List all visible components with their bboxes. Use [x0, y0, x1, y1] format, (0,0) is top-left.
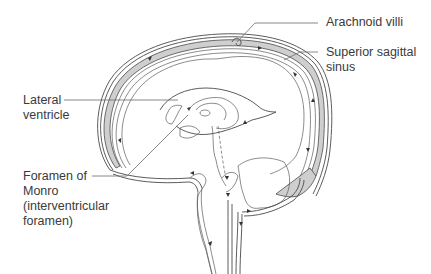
- brain-surface: [110, 57, 304, 274]
- label-line: Monro: [23, 184, 109, 199]
- csf-flow-arrows: [118, 46, 315, 246]
- label-lateral-ventricle: Lateral ventricle: [23, 93, 70, 123]
- label-foramen-of-monro: Foramen of Monro (interventricular foram…: [23, 169, 109, 229]
- label-line: foramen): [23, 214, 109, 229]
- label-line: sinus: [326, 60, 416, 75]
- skull-outline: [98, 34, 332, 197]
- label-line: Arachnoid villi: [326, 15, 403, 30]
- csf-circulation-diagram: [0, 0, 431, 274]
- label-line: Superior sagittal: [326, 45, 416, 60]
- label-superior-sagittal-sinus: Superior sagittal sinus: [326, 45, 416, 75]
- ventricles: [160, 88, 276, 192]
- label-line: (interventricular: [23, 199, 109, 214]
- label-line: Foramen of: [23, 169, 109, 184]
- label-line: Lateral: [23, 93, 70, 108]
- label-arachnoid-villi: Arachnoid villi: [326, 15, 403, 30]
- label-line: ventricle: [23, 108, 70, 123]
